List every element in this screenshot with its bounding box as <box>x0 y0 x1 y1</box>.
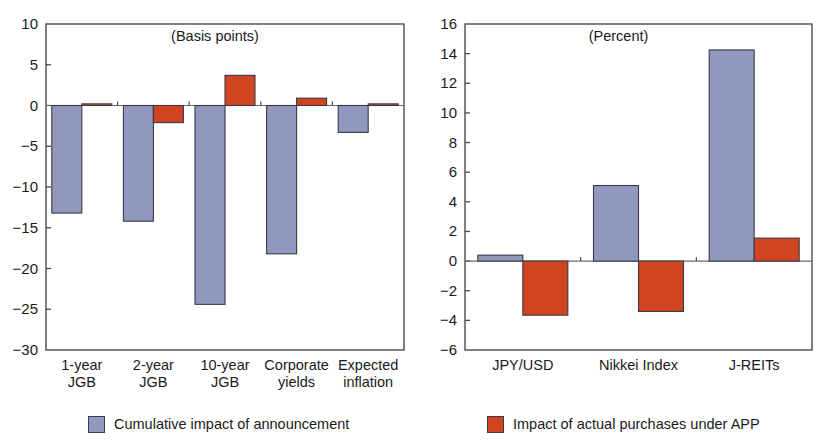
y-axis-tick-label: −4 <box>440 311 457 328</box>
x-axis-category-label: 2-year <box>133 357 174 373</box>
blue-square-swatch-icon <box>88 416 105 433</box>
chart-panel-right: 1614121086420−2−4−6(Percent)JPY/USDNikke… <box>408 0 816 444</box>
x-axis-category-label: Nikkei Index <box>599 357 679 373</box>
y-axis-tick-label: 12 <box>440 74 457 91</box>
bar <box>639 261 684 311</box>
x-axis-category-label: JGB <box>211 374 239 390</box>
x-axis-category-label: Expected <box>338 357 398 373</box>
bar <box>368 104 398 106</box>
y-axis-tick-label: 0 <box>30 97 38 114</box>
legend-announcement: Cumulative impact of announcement <box>88 416 349 433</box>
bar <box>594 186 639 262</box>
x-axis-category-label: inflation <box>343 374 393 390</box>
x-axis-category-label: JGB <box>68 374 96 390</box>
y-axis-tick-label: 8 <box>449 134 457 151</box>
y-axis-tick-label: 10 <box>21 15 38 32</box>
chart-figure: 1050−5−10−15−20−25−30(Basis points)1-yea… <box>0 0 816 444</box>
bar <box>754 238 799 261</box>
x-axis-category-label: Corporate <box>264 357 328 373</box>
panel-unit-label: (Basis points) <box>171 28 259 44</box>
bar <box>195 106 225 305</box>
chart-panel-left: 1050−5−10−15−20−25−30(Basis points)1-yea… <box>0 0 408 444</box>
bar <box>225 75 255 105</box>
red-square-swatch-icon <box>487 416 504 433</box>
bar <box>709 50 754 261</box>
y-axis-tick-label: 0 <box>449 252 457 269</box>
bar <box>478 255 523 261</box>
y-axis-tick-label: −20 <box>13 260 38 277</box>
bar <box>338 106 368 133</box>
right-bar-chart-svg: 1614121086420−2−4−6(Percent)JPY/USDNikke… <box>408 0 816 410</box>
panel-unit-label: (Percent) <box>589 28 649 44</box>
y-axis-tick-label: −15 <box>13 219 38 236</box>
y-axis-tick-label: 2 <box>449 222 457 239</box>
y-axis-tick-label: −5 <box>21 137 38 154</box>
bar <box>52 106 82 214</box>
legend-purchases: Impact of actual purchases under APP <box>487 416 760 433</box>
bar <box>82 104 112 106</box>
x-axis-category-label: 10-year <box>200 357 249 373</box>
y-axis-tick-label: −2 <box>440 282 457 299</box>
bar <box>267 106 297 254</box>
x-axis-category-label: JGB <box>139 374 167 390</box>
y-axis-tick-label: −30 <box>13 341 38 358</box>
bar <box>297 98 327 105</box>
left-bar-chart-svg: 1050−5−10−15−20−25−30(Basis points)1-yea… <box>0 0 408 410</box>
y-axis-tick-label: 5 <box>30 56 38 73</box>
y-axis-tick-label: 4 <box>449 193 457 210</box>
x-axis-category-label: JPY/USD <box>492 357 553 373</box>
x-axis-category-label: yields <box>278 374 315 390</box>
y-axis-tick-label: 14 <box>440 45 457 62</box>
y-axis-tick-label: −10 <box>13 178 38 195</box>
legend-label-purchases: Impact of actual purchases under APP <box>513 417 760 432</box>
y-axis-tick-label: 10 <box>440 104 457 121</box>
y-axis-tick-label: −25 <box>13 300 38 317</box>
y-axis-tick-label: 6 <box>449 163 457 180</box>
legend-label-announcement: Cumulative impact of announcement <box>114 417 349 432</box>
y-axis-tick-label: 16 <box>440 15 457 32</box>
x-axis-category-label: J-REITs <box>729 357 780 373</box>
bar <box>523 261 568 315</box>
y-axis-tick-label: −6 <box>440 341 457 358</box>
x-axis-category-label: 1-year <box>61 357 102 373</box>
bar <box>123 106 153 222</box>
bar <box>153 106 183 123</box>
